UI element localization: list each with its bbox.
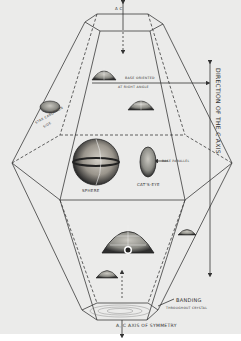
banding-rings: [90, 305, 150, 317]
left-stone-label-2: SIDE: [43, 121, 52, 129]
axis-of-symmetry-label: A, C AXIS OF SYMMETRY: [116, 323, 177, 328]
upper-cabochon: [92, 68, 116, 80]
base-parallel-label: BASE PARALLEL: [162, 159, 189, 163]
crystal-outline: [12, 14, 232, 320]
cats-eye: [140, 147, 156, 177]
center-cabochon: [128, 98, 154, 110]
crystal-diagram: A C BASE ORIENTED AT RIGHT ANGLE STAR CA…: [0, 0, 241, 341]
lower-small-cabochon: [96, 271, 118, 279]
direction-axis-label: DIRECTION OF THE C AXIS: [215, 68, 222, 154]
top-axis-label: A C: [115, 6, 123, 11]
sphere: [73, 139, 119, 185]
large-star-cabochon: [102, 225, 154, 254]
right-small-cabochon: [178, 230, 196, 236]
c-axis: [122, 2, 123, 336]
base-oriented-label-1: BASE ORIENTED: [125, 76, 155, 80]
base-oriented-label-2: AT RIGHT ANGLE: [118, 85, 149, 89]
cats-eye-label: CAT'S-EYE: [137, 182, 160, 187]
sphere-label: SPHERE: [82, 188, 100, 193]
banding-label-2: THROUGHOUT CRYSTAL: [165, 306, 207, 310]
banding-label-1: BANDING: [176, 297, 202, 303]
